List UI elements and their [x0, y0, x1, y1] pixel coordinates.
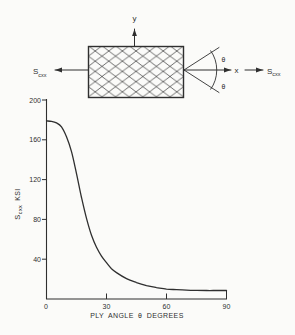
- x-axis-title: PLY ANGLE θ DEGREES: [90, 312, 184, 319]
- x-tick-label-90: 90: [223, 303, 231, 310]
- y-axis-title: ScxxKSI: [13, 188, 23, 219]
- theta-upper-label: θ: [222, 56, 226, 63]
- x-tick-label-30: 30: [103, 303, 111, 310]
- figure-canvas: y Scxx θ θ x Scxx: [0, 0, 295, 335]
- diagram-y-axis-label: y: [133, 14, 137, 23]
- fiber-direction-upper-line: [184, 48, 219, 71]
- y-tick-label-80: 80: [33, 216, 41, 223]
- x-tick-label-60: 60: [163, 303, 171, 310]
- x-tick-marks: [107, 291, 227, 300]
- y-tick-label-200: 200: [29, 97, 41, 104]
- diagram-x-axis-label: x: [235, 66, 239, 75]
- right-stress-label: Scxx: [267, 67, 281, 78]
- strength-curve: [47, 121, 227, 291]
- fiber-direction-lower-line: [184, 70, 219, 93]
- theta-lower-label: θ: [222, 83, 226, 90]
- left-stress-label: Scxx: [33, 67, 47, 78]
- y-tick-label-120: 120: [29, 176, 41, 183]
- strength-chart: 200 160 120 80 40 0 30 60 90 PLY ANGLE θ…: [13, 97, 230, 320]
- ply-diagram: y Scxx θ θ x Scxx: [33, 14, 281, 98]
- y-tick-marks: [42, 100, 47, 259]
- specimen-rectangle: [89, 47, 184, 98]
- y-tick-label-160: 160: [29, 136, 41, 143]
- figure-composite-strength: y Scxx θ θ x Scxx: [0, 0, 295, 335]
- x-tick-label-0: 0: [44, 303, 48, 310]
- y-tick-label-40: 40: [33, 256, 41, 263]
